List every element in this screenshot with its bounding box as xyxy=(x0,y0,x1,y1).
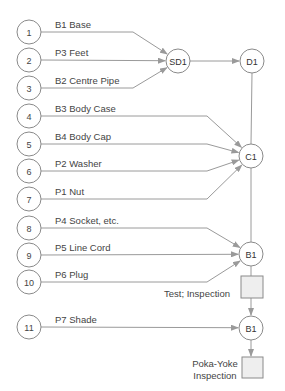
input-step-number: 1 xyxy=(26,28,31,38)
test-inspection-label: Test; Inspection xyxy=(164,288,230,299)
input-step-number: 10 xyxy=(24,278,34,288)
input-part-label: P1 Nut xyxy=(55,186,84,197)
poka-yoke-label-line2: Inspection xyxy=(193,370,236,381)
operation-node-label: B1 xyxy=(245,324,256,334)
input-step-number: 7 xyxy=(26,195,31,205)
operation-node-label: C1 xyxy=(245,152,257,162)
input-part-label: B3 Body Case xyxy=(55,103,116,114)
input-part-label: P7 Shade xyxy=(55,314,97,325)
input-part-label: P4 Socket, etc. xyxy=(55,215,119,226)
input-connector xyxy=(41,60,165,61)
input-part-label: P5 Line Cord xyxy=(55,242,110,253)
input-part-label: B2 Centre Pipe xyxy=(55,75,119,86)
input-step-number: 11 xyxy=(24,323,33,333)
input-part-label: B4 Body Cap xyxy=(55,131,111,142)
input-part-label: P6 Plug xyxy=(55,269,88,280)
input-step-number: 9 xyxy=(26,251,31,261)
input-connector xyxy=(41,254,238,255)
input-part-label: P3 Feet xyxy=(55,47,89,58)
operation-node-label: B1 xyxy=(245,250,256,260)
input-step-number: 8 xyxy=(26,224,31,234)
operation-node-label: SD1 xyxy=(169,57,187,67)
poka-yoke-inspection-box xyxy=(242,357,263,378)
input-part-label: P2 Washer xyxy=(55,158,102,169)
connector-d1-c1 xyxy=(251,73,252,144)
test-inspection-box xyxy=(241,276,263,298)
input-connector xyxy=(41,144,238,153)
assembly-process-chart: 1B1 Base2P3 Feet3B2 Centre Pipe4B3 Body … xyxy=(0,0,285,391)
input-step-number: 6 xyxy=(26,167,31,177)
input-step-number: 2 xyxy=(26,56,31,66)
input-step-number: 4 xyxy=(26,112,31,122)
input-connector xyxy=(41,327,238,328)
input-step-number: 5 xyxy=(26,140,31,150)
input-step-number: 3 xyxy=(26,84,31,94)
poka-yoke-label-line1: Poka-Yoke xyxy=(192,358,238,369)
operation-node-label: D1 xyxy=(246,57,258,67)
input-part-label: B1 Base xyxy=(55,19,91,30)
